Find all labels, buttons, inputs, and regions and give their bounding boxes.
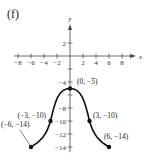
y-tick-label: −8 — [59, 105, 67, 113]
x-axis-label: x — [138, 53, 143, 61]
data-point — [68, 86, 72, 90]
y-tick-label: −10 — [55, 118, 66, 126]
point-label: (−6, −14) — [1, 120, 30, 129]
y-tick-label: 2 — [63, 40, 67, 48]
x-tick-label: 6 — [107, 59, 111, 67]
y-axis-label: y — [68, 15, 73, 23]
y-tick-label: −4 — [59, 79, 67, 87]
y-tick-label: −14 — [55, 144, 66, 152]
x-tick-label: −6 — [27, 59, 35, 67]
x-axis-arrow-icon — [130, 54, 136, 58]
data-point — [48, 119, 52, 123]
point-label: (−3, −10) — [18, 111, 47, 120]
data-point — [107, 145, 111, 149]
x-tick-label: 2 — [81, 59, 85, 67]
point-label: (3, −10) — [93, 111, 118, 120]
point-label: (6, −14) — [104, 132, 129, 141]
chart: xy −8−6−4−224682−4−8−10−12−14 (−6, −14)(… — [0, 0, 149, 163]
x-tick-label: 8 — [120, 59, 124, 67]
y-tick-label: −12 — [55, 131, 66, 139]
leader-line — [20, 130, 31, 147]
x-tick-label: −8 — [14, 59, 22, 67]
x-tick-label: −4 — [40, 59, 48, 67]
data-point — [87, 119, 91, 123]
x-tick-label: −2 — [53, 59, 61, 67]
y-axis-arrow-icon — [68, 24, 72, 30]
point-label: (0, −5) — [77, 77, 98, 86]
x-tick-label: 4 — [94, 59, 98, 67]
